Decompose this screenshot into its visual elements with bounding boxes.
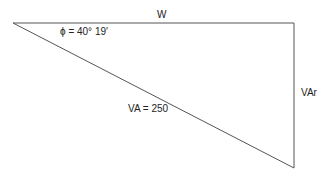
label-va: VA = 250 (128, 103, 168, 115)
label-phase-angle: ϕ = 40° 19′ (60, 26, 108, 38)
label-var: VAr (301, 87, 317, 99)
power-triangle-diagram (0, 0, 328, 176)
label-w: W (157, 9, 166, 21)
apparent-power-hypotenuse-va (13, 23, 294, 168)
